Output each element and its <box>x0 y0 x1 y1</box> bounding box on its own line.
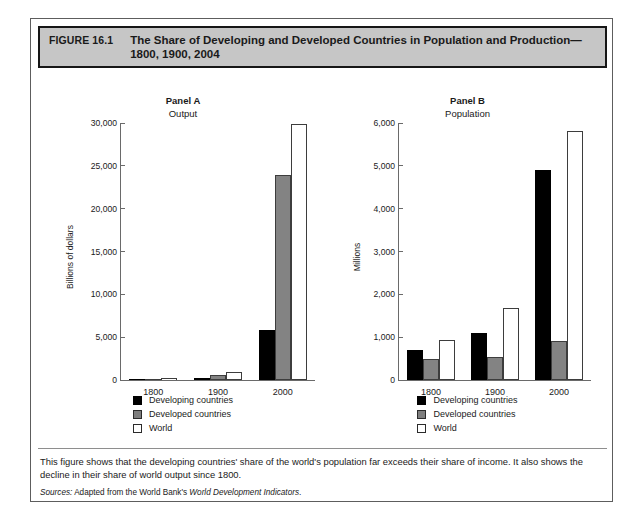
y-tick-label: 5,000 <box>373 161 399 171</box>
panel-b-bar-groups <box>399 123 591 380</box>
panel-a-legend: Developing countriesDeveloped countriesW… <box>38 393 328 435</box>
figure-header-band: FIGURE 16.1 The Share of Developing and … <box>38 26 607 68</box>
chart-panels: Panel A Output Billions of dollars 05,00… <box>38 75 607 445</box>
legend-swatch-developing <box>417 396 426 405</box>
y-tick-label: 2,000 <box>373 289 399 299</box>
panel-b-plot-area: 01,0002,0003,0004,0005,0006,000 18001900… <box>398 123 591 381</box>
y-tick-label: 4,000 <box>373 204 399 214</box>
figure-title: The Share of Developing and Developed Co… <box>130 33 596 61</box>
bar-world <box>503 308 519 380</box>
panel-b-legend: Developing countriesDeveloped countriesW… <box>328 393 607 435</box>
bar-developing <box>535 170 551 380</box>
legend-label: Developed countries <box>433 409 515 419</box>
figure-number: FIGURE 16.1 <box>49 33 113 46</box>
panel-b-y-axis-label: Millions <box>352 192 362 322</box>
legend-swatch-developed <box>417 410 426 419</box>
panel-b-legend-items: Developing countriesDeveloped countriesW… <box>417 393 517 435</box>
y-tick-label: 30,000 <box>91 118 121 128</box>
y-tick-label: 5,000 <box>95 332 121 342</box>
bar-developed <box>551 341 567 380</box>
legend-label: Developing countries <box>433 395 517 405</box>
sources-label: Sources: <box>40 488 72 497</box>
bar-developing <box>471 333 487 380</box>
figure-sources: Sources: Adapted from the World Bank's W… <box>40 488 605 497</box>
panel-a-subtitle: Output <box>38 108 328 119</box>
legend-item: Developing countries <box>133 393 233 407</box>
panel-a-bar-groups <box>121 123 315 380</box>
bar-group <box>250 123 315 380</box>
sources-publication: World Development Indicators <box>189 488 299 497</box>
legend-swatch-developed <box>133 410 142 419</box>
y-tick-label: 25,000 <box>91 161 121 171</box>
bar-developed <box>275 175 291 380</box>
legend-item: World <box>133 421 233 435</box>
legend-item: Developed countries <box>133 407 233 421</box>
bar-group <box>527 123 591 380</box>
bar-world <box>291 124 307 380</box>
y-tick-label: 20,000 <box>91 204 121 214</box>
panel-a-plot-area: 05,00010,00015,00020,00025,00030,000 180… <box>120 123 315 381</box>
legend-swatch-developing <box>133 396 142 405</box>
bar-group <box>399 123 463 380</box>
y-tick-label: 1,000 <box>373 332 399 342</box>
y-tick-label: 15,000 <box>91 247 121 257</box>
panel-b-subtitle: Population <box>328 108 607 119</box>
caption-divider <box>38 448 607 449</box>
bar-group <box>463 123 527 380</box>
y-tick-label: 0 <box>112 375 121 385</box>
y-tick-label: 6,000 <box>373 118 399 128</box>
y-tick-label: 10,000 <box>91 289 121 299</box>
bar-developing <box>407 350 423 380</box>
sources-period: . <box>299 488 301 497</box>
sources-text: Adapted from the World Bank's <box>74 488 187 497</box>
figure-frame: FIGURE 16.1 The Share of Developing and … <box>30 18 613 502</box>
bar-developed <box>487 357 503 380</box>
legend-swatch-world <box>133 424 142 433</box>
bar-world <box>226 372 242 380</box>
panel-a-title: Panel A <box>38 95 328 106</box>
legend-item: Developed countries <box>417 407 517 421</box>
legend-label: Developed countries <box>149 409 231 419</box>
bar-world <box>567 131 583 380</box>
bar-developed <box>423 359 439 380</box>
panel-a-y-axis-label: Billions of dollars <box>65 192 75 322</box>
bar-world <box>439 340 455 380</box>
bar-developing <box>259 330 275 380</box>
bar-group <box>186 123 251 380</box>
panel-a-legend-items: Developing countriesDeveloped countriesW… <box>133 393 233 435</box>
panel-b-title: Panel B <box>328 95 607 106</box>
panel-a-output: Panel A Output Billions of dollars 05,00… <box>38 75 328 445</box>
legend-item: World <box>417 421 517 435</box>
y-tick-label: 0 <box>390 375 399 385</box>
legend-item: Developing countries <box>417 393 517 407</box>
y-tick-label: 3,000 <box>373 247 399 257</box>
legend-label: World <box>149 423 172 433</box>
legend-label: Developing countries <box>149 395 233 405</box>
bar-group <box>121 123 186 380</box>
figure-caption: This figure shows that the developing co… <box>40 455 605 482</box>
panel-b-population: Panel B Population Millions 01,0002,0003… <box>328 75 607 445</box>
legend-swatch-world <box>417 424 426 433</box>
legend-label: World <box>433 423 456 433</box>
